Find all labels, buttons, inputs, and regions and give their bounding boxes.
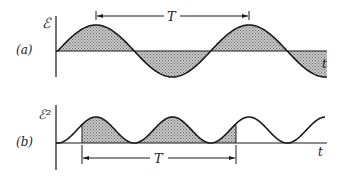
period-label-b: T [154,151,164,166]
period-label-a: T [167,9,177,24]
panel-a: T ℰ (a) t [16,9,327,77]
y-axis-label-b: ℰ² [38,107,51,122]
panel-label-b: (b) [16,135,33,149]
figure: T ℰ (a) t T ℰ² (b) t [0,0,343,177]
panel-label-a: (a) [16,43,33,57]
arrowhead-left-a [97,14,103,18]
x-axis-label-a: t [322,57,327,71]
arrowhead-right-a [242,14,248,18]
arrowhead-right-b [229,156,235,160]
panel-b: T ℰ² (b) t [16,105,327,170]
y-axis-label-a: ℰ [42,15,52,31]
x-axis-label-b: t [318,145,323,159]
arrowhead-left-b [83,156,89,160]
